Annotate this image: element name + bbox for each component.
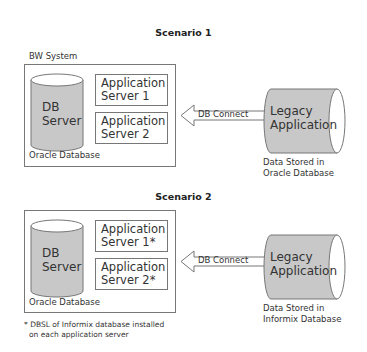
application-server-1: Application Server 1* (95, 220, 168, 252)
db-server-label: DB Server (42, 100, 81, 128)
legacy-application-label: Legacy Application (270, 104, 337, 132)
legacy-application-label: Legacy Application (270, 250, 337, 278)
legacy-caption: Data Stored in Oracle Database (263, 157, 334, 179)
scenario-2-title: Scenario 2 (0, 191, 367, 202)
application-server-2: Application Server 2 (95, 112, 168, 144)
footnote: * DBSL of Informix database installed on… (24, 320, 164, 340)
oracle-database-label: Oracle Database (29, 297, 100, 307)
db-connect-label: DB Connect (198, 255, 248, 265)
application-server-1: Application Server 1 (95, 74, 168, 106)
scenario-1-title: Scenario 1 (0, 27, 367, 38)
application-server-2: Application Server 2* (95, 258, 168, 290)
legacy-caption: Data Stored in Informix Database (263, 303, 341, 325)
bw-system-label: BW System (29, 51, 77, 61)
oracle-database-label: Oracle Database (29, 150, 100, 160)
db-server-label: DB Server (42, 246, 81, 274)
db-connect-label: DB Connect (198, 109, 248, 119)
